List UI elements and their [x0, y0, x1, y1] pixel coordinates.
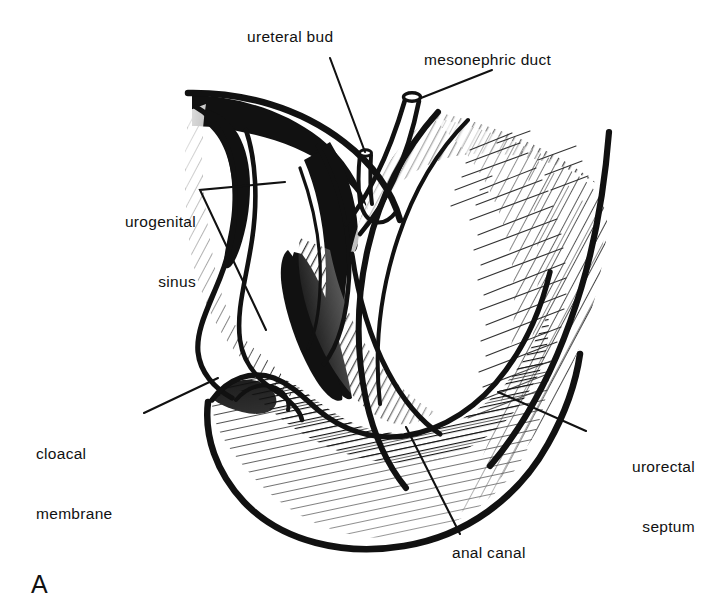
anatomical-figure: ureteral bud mesonephric duct urogenital…	[0, 0, 701, 612]
label-urorectal-septum: urorectal septum	[589, 417, 695, 577]
label-urorectal-septum-line1: urorectal	[589, 457, 695, 477]
label-urogenital-sinus-line1: urogenital	[36, 212, 196, 232]
ureteral-bud-tube-left	[359, 154, 361, 202]
label-urorectal-septum-line2: septum	[589, 517, 695, 537]
label-cloacal-membrane: cloacal membrane	[36, 404, 206, 564]
label-cloacal-membrane-line1: cloacal	[36, 444, 206, 464]
label-anal-canal: anal canal	[452, 543, 526, 562]
ureteral-bud-tube-right	[370, 155, 372, 204]
label-urogenital-sinus: urogenital sinus	[36, 172, 196, 332]
label-urogenital-sinus-line2: sinus	[36, 272, 196, 292]
label-mesonephric-duct: mesonephric duct	[424, 50, 551, 69]
mesonephric-duct-lumen	[404, 93, 421, 101]
label-cloacal-membrane-line2: membrane	[36, 504, 206, 524]
panel-letter-a: A	[31, 570, 48, 599]
label-ureteral-bud: ureteral bud	[247, 27, 333, 46]
